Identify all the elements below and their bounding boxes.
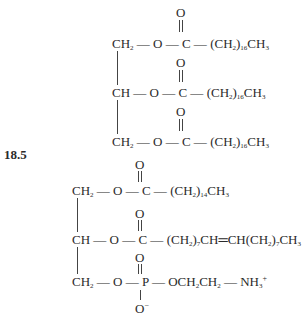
backbone-bond — [117, 51, 118, 85]
double-bond — [179, 70, 183, 82]
carbonyl-oxygen: O — [176, 105, 185, 118]
double-bond — [138, 171, 142, 182]
ester-row-3: CH2 — O — C — (CH2)16CH3 — [112, 135, 269, 148]
carbonyl-oxygen: O — [176, 56, 185, 69]
unsaturated-ester-row: CH — O — C — (CH2)7CH═CH(CH2)7CH3 — [72, 233, 301, 246]
double-bond — [138, 264, 142, 274]
backbone-bond — [77, 247, 78, 274]
single-bond — [140, 290, 141, 300]
phosphoryl-oxygen: O — [135, 251, 144, 264]
carbonyl-oxygen: O — [135, 207, 144, 220]
backbone-bond — [77, 198, 78, 232]
backbone-bond — [117, 100, 118, 134]
ester-row-1: CH2 — O — C — (CH2)16CH3 — [112, 37, 269, 50]
double-bond — [179, 119, 183, 131]
ester-row-1: CH2 — O — C — (CH2)14CH3 — [72, 184, 229, 197]
ester-row-2: CH — O — C — (CH2)16CH3 — [112, 86, 265, 99]
carbonyl-oxygen: O — [135, 158, 144, 171]
phosphate-row: CH2 — O — P — OCH2CH2 — NH3+ — [72, 275, 267, 288]
double-bond — [138, 220, 142, 231]
double-bond — [179, 20, 183, 32]
phosphate-anion-oxygen: O− — [135, 302, 149, 315]
problem-number: 18.5 — [4, 147, 27, 163]
carbonyl-oxygen: O — [176, 6, 185, 19]
